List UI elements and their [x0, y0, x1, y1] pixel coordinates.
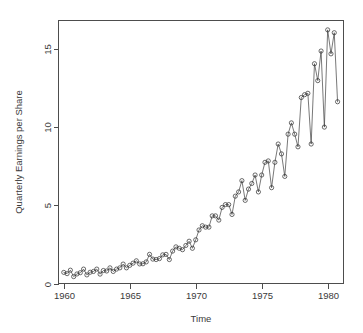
y-axis-ticks: 051015 — [42, 44, 59, 287]
chart-container: 051015 19601965197019751980 Time Quarter… — [0, 0, 363, 333]
data-points — [62, 28, 340, 279]
x-tick-label: 1975 — [252, 290, 273, 301]
data-line — [64, 30, 338, 277]
y-tick-label: 5 — [42, 203, 53, 208]
y-tick-label: 10 — [42, 122, 53, 133]
x-tick-label: 1960 — [54, 290, 75, 301]
y-axis-title: Quarterly Earnings per Share — [13, 90, 24, 214]
plot-panel-border — [59, 21, 344, 284]
x-tick-label: 1970 — [186, 290, 207, 301]
x-axis-title: Time — [191, 313, 212, 324]
quarterly-earnings-line-chart: 051015 19601965197019751980 Time Quarter… — [0, 0, 363, 333]
x-tick-label: 1965 — [120, 290, 141, 301]
y-tick-label: 0 — [42, 282, 53, 287]
x-tick-label: 1980 — [318, 290, 339, 301]
x-axis-ticks: 19601965197019751980 — [54, 284, 339, 301]
y-tick-label: 15 — [42, 44, 53, 55]
